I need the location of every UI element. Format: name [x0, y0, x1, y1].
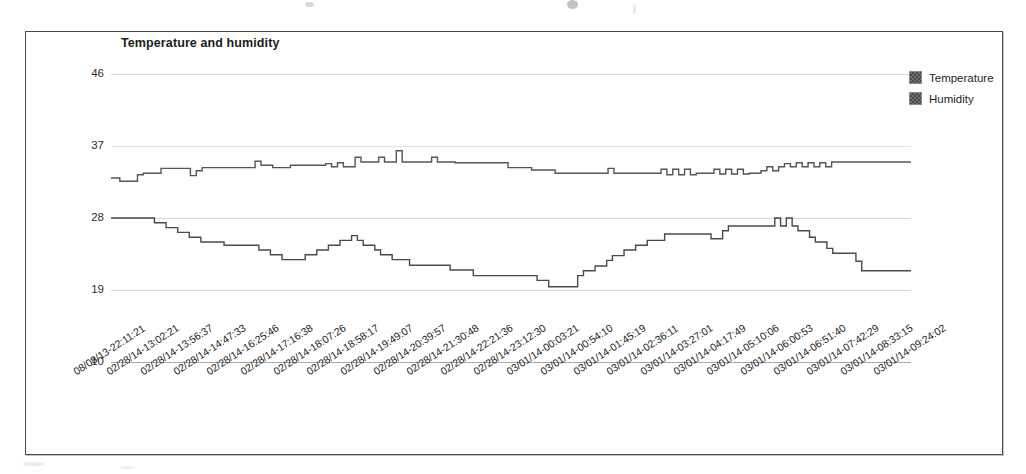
x-axis-labels: 08/08/13-22:11:2102/28/14-13:02:2102/28/…	[111, 367, 931, 467]
scan-artifact	[633, 4, 636, 14]
y-axis-tick-label: 19	[64, 283, 104, 295]
scan-artifact	[567, 0, 578, 9]
legend-swatch-temperature-icon	[909, 71, 922, 84]
scan-artifact	[22, 462, 44, 466]
y-axis-tick-label: 28	[64, 211, 104, 223]
series-line-humidity	[111, 218, 911, 287]
plot-area	[111, 74, 911, 362]
y-axis-tick-label: 46	[64, 67, 104, 79]
series-line-temperature	[111, 151, 911, 181]
scan-artifact	[305, 2, 314, 7]
chart-frame: Temperature and humidity 1019283746 08/0…	[25, 31, 1003, 455]
legend-label-temperature: Temperature	[929, 72, 994, 84]
legend-item-humidity[interactable]: Humidity	[909, 92, 1026, 105]
y-axis-tick-label: 37	[64, 139, 104, 151]
legend-item-temperature[interactable]: Temperature	[909, 71, 1026, 84]
chart-lines	[111, 74, 911, 362]
chart-title: Temperature and humidity	[121, 36, 279, 50]
legend-swatch-humidity-icon	[909, 92, 922, 105]
chart-legend: Temperature Humidity	[909, 71, 1026, 113]
legend-label-humidity: Humidity	[929, 93, 974, 105]
